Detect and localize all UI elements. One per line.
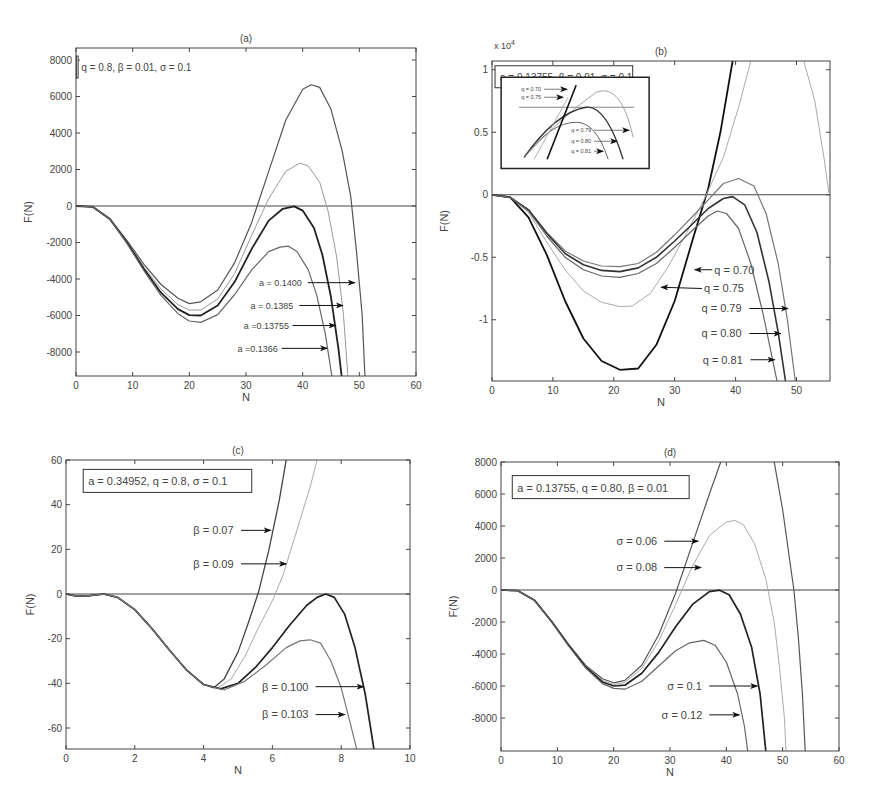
x-tick-label: 50 xyxy=(791,385,803,396)
annotation-label: β = 0.100 xyxy=(262,681,308,693)
annotation-label: a = 0.1385 xyxy=(251,301,294,311)
annotation-label: a = 0.1400 xyxy=(259,278,302,288)
y-tick-label: 0.5 xyxy=(474,127,488,138)
y-tick-label: 2000 xyxy=(50,164,73,175)
inset-label: q = 0.80 xyxy=(571,138,591,144)
annotation-label: β = 0.103 xyxy=(262,708,308,720)
curve--0-103 xyxy=(66,594,357,749)
x-axis-label: N xyxy=(242,391,250,403)
curve--0-1 xyxy=(501,590,766,751)
axes-frame xyxy=(66,460,410,749)
curve-annotation: β = 0.07 xyxy=(193,524,270,536)
y-tick-label: 0 xyxy=(482,189,488,200)
curve-annotation: q = 0.81 xyxy=(703,354,775,366)
x-tick-label: 40 xyxy=(730,385,742,396)
parameter-text: a = 0.34952, q = 0.8, σ = 0.1 xyxy=(88,475,227,487)
series-group xyxy=(66,460,374,749)
panel-title: (b) xyxy=(655,46,667,57)
x-tick-label: 20 xyxy=(608,385,620,396)
panel-title: (d) xyxy=(664,447,676,458)
curve-annotation: q = 0.75 xyxy=(661,282,744,294)
x-tick-label: 30 xyxy=(669,385,681,396)
annotation-label: σ = 0.08 xyxy=(616,561,657,573)
curve-a-0-1385 xyxy=(76,163,348,378)
y-tick-label: 0 xyxy=(56,589,62,600)
curve-annotation: a =0.13755 xyxy=(244,321,336,331)
y-axis-label: F(N) xyxy=(438,210,450,232)
panel-title: (a) xyxy=(240,33,252,44)
annotation-label: q = 0.75 xyxy=(704,282,744,294)
curve-annotation: σ = 0.08 xyxy=(616,561,701,573)
annotation-label: q = 0.70 xyxy=(714,264,754,276)
x-tick-label: 30 xyxy=(240,380,252,391)
y-tick-label: -4000 xyxy=(46,274,72,285)
curve-annotation: σ = 0.1 xyxy=(667,680,757,692)
x-tick-label: 20 xyxy=(608,755,620,766)
x-axis-label: N xyxy=(234,764,242,776)
y-tick-label: -8000 xyxy=(471,713,497,724)
inset-label: q = 0.79 xyxy=(571,127,591,133)
curve-q-0-79 xyxy=(492,179,795,382)
x-tick-label: 0 xyxy=(63,753,69,764)
curve-annotation: q = 0.70 xyxy=(695,264,755,276)
x-tick-label: 0 xyxy=(73,380,79,391)
x-tick-label: 50 xyxy=(354,380,366,391)
x-tick-label: 10 xyxy=(404,753,416,764)
y-axis-label: F(N) xyxy=(447,596,459,618)
curve-annotation: β = 0.100 xyxy=(262,681,363,693)
annotation-label: a =0.1366 xyxy=(238,344,278,354)
x-tick-label: 0 xyxy=(489,385,495,396)
curve-a-0-13755 xyxy=(76,206,342,378)
x-tick-label: 60 xyxy=(833,755,845,766)
curve-annotation: q = 0.80 xyxy=(701,327,780,339)
y-tick-label: 0 xyxy=(66,201,72,212)
annotation-label: q = 0.81 xyxy=(703,354,743,366)
curve-annotation: a =0.1366 xyxy=(238,344,328,354)
curve-annotation: β = 0.103 xyxy=(262,708,345,720)
inset-label: q = 0.70 xyxy=(521,86,541,92)
parameter-box xyxy=(76,56,78,78)
x-tick-label: 10 xyxy=(127,380,139,391)
y-tick-label: 8000 xyxy=(475,457,498,468)
y-tick-label: -40 xyxy=(48,678,63,689)
y-tick-label: -4000 xyxy=(471,649,497,660)
y-tick-label: -0.5 xyxy=(471,252,489,263)
annotation-label: β = 0.07 xyxy=(193,524,233,536)
y-tick-label: 8000 xyxy=(50,55,73,66)
y-tick-label: -8000 xyxy=(46,347,72,358)
y-tick-label: -20 xyxy=(48,633,63,644)
panel-b-chart: (b)x 10401020304050-1-0.500.51NF(N)a = 0… xyxy=(438,39,830,408)
x-axis-label: N xyxy=(666,766,674,778)
annotation-label: a =0.13755 xyxy=(244,321,289,331)
curve--0-08 xyxy=(501,520,786,751)
inset-zoom: q = 0.70q = 0.75q = 0.79q = 0.80q = 0.81 xyxy=(501,77,649,168)
x-tick-label: 60 xyxy=(410,380,422,391)
y-tick-label: 1 xyxy=(482,64,488,75)
y-tick-label: 2000 xyxy=(475,553,498,564)
series-group xyxy=(501,462,805,751)
x-axis-label: N xyxy=(657,396,665,408)
y-tick-label: -1 xyxy=(479,314,488,325)
x-tick-label: 10 xyxy=(547,385,559,396)
y-tick-label: -6000 xyxy=(471,681,497,692)
inset-label: q = 0.75 xyxy=(521,94,541,100)
annotation-label: σ = 0.12 xyxy=(662,709,703,721)
y-tick-label: 20 xyxy=(51,544,63,555)
y-tick-label: -6000 xyxy=(46,310,72,321)
curve-annotation: a = 0.1385 xyxy=(251,301,343,311)
curve--0-06-descending- xyxy=(774,462,805,751)
y-tick-label: 40 xyxy=(51,499,63,510)
y-tick-label: 0 xyxy=(491,585,497,596)
x-tick-label: 40 xyxy=(721,755,733,766)
annotation-label: q = 0.79 xyxy=(701,302,741,314)
x-tick-label: 0 xyxy=(498,755,504,766)
x-tick-label: 8 xyxy=(338,753,344,764)
x-tick-label: 30 xyxy=(664,755,676,766)
curve-annotation: σ = 0.12 xyxy=(662,709,740,721)
curve-a-0-1366 xyxy=(76,206,332,378)
x-tick-label: 2 xyxy=(132,753,138,764)
panel-d-chart: (d)0102030405060-8000-6000-4000-20000200… xyxy=(447,447,845,778)
x-tick-label: 6 xyxy=(270,753,276,764)
y-tick-label: 4000 xyxy=(50,128,73,139)
y-exponent-label: x 104 xyxy=(494,39,515,51)
